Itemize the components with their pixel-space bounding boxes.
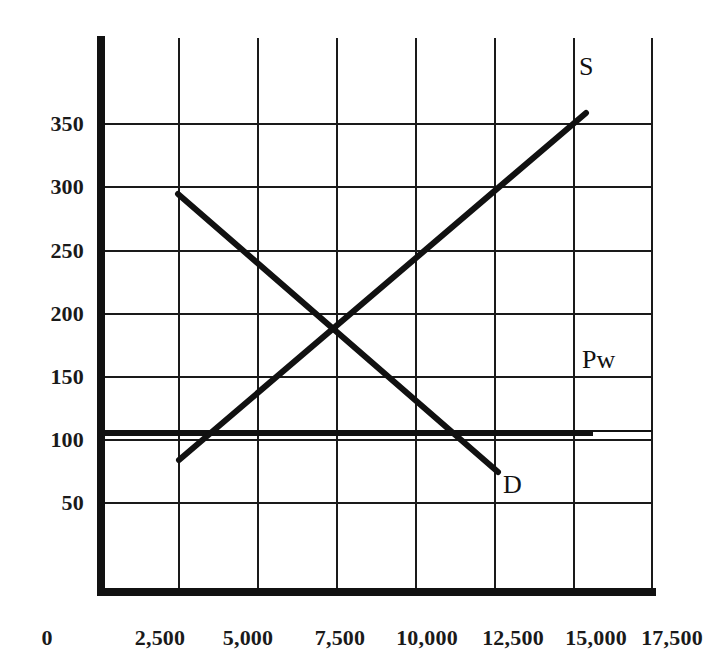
x-tick-label-7500: 7,500: [315, 625, 366, 651]
chart-plot-area: [0, 0, 704, 659]
supply-curve: [179, 113, 586, 460]
y-tick-label-200: 200: [18, 301, 84, 327]
x-tick-label-10000: 10,000: [396, 625, 458, 651]
y-tick-label-300: 300: [18, 174, 84, 200]
supply-demand-chart: 350 300 250 200 150 100 50 0 2,500 5,000…: [0, 0, 704, 659]
y-tick-label-100: 100: [18, 427, 84, 453]
x-tick-label-12500: 12,500: [482, 625, 544, 651]
horizontal-gridlines: [101, 124, 652, 503]
x-tick-label-2500: 2,500: [135, 625, 186, 651]
y-tick-label-50: 50: [18, 490, 84, 516]
demand-curve-label: D: [503, 470, 522, 500]
x-tick-label-5000: 5,000: [223, 625, 274, 651]
supply-curve-label: S: [579, 52, 593, 82]
x-tick-label-0: 0: [41, 625, 52, 651]
y-tick-label-150: 150: [18, 364, 84, 390]
x-tick-label-17500: 17,500: [641, 625, 703, 651]
x-tick-label-15000: 15,000: [565, 625, 627, 651]
pw-price-label: Pw: [582, 345, 615, 375]
y-tick-label-250: 250: [18, 238, 84, 264]
y-tick-label-350: 350: [18, 111, 84, 137]
